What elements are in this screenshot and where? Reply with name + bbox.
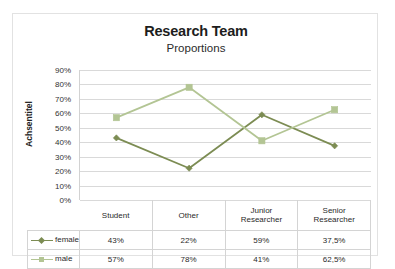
table-corner-cell xyxy=(28,200,80,231)
legend-swatch-female xyxy=(31,236,53,244)
series-plot xyxy=(80,70,371,200)
chart-frame: Research Team Proportions Achsentitel 90… xyxy=(12,13,378,256)
y-axis-tick-labels: 90%80%70%60%50%40%30%20%10%0% xyxy=(33,70,75,200)
value-cell-female-3: 37,5% xyxy=(298,231,371,250)
data-point-male-1 xyxy=(186,84,192,90)
y-axis-tick-label: 20% xyxy=(55,167,71,176)
category-header-line: Student xyxy=(80,211,152,220)
table-header-row: StudentOtherJuniorResearcherSeniorResear… xyxy=(28,200,371,231)
value-cell-female-2: 59% xyxy=(225,231,298,250)
category-header-2: JuniorResearcher xyxy=(225,200,298,231)
category-header-1: Other xyxy=(152,200,225,231)
plot-area xyxy=(79,70,371,200)
data-point-female-3 xyxy=(332,143,338,149)
value-cell-female-1: 22% xyxy=(152,231,225,250)
y-axis-tick-label: 80% xyxy=(55,80,71,89)
value-cell-male-2: 41% xyxy=(225,250,298,269)
category-header-0: Student xyxy=(80,200,153,231)
chart-title: Research Team xyxy=(13,23,379,39)
y-axis-tick-label: 90% xyxy=(55,66,71,75)
legend-swatch-male xyxy=(31,255,53,263)
category-header-3: SeniorResearcher xyxy=(298,200,371,231)
value-cell-female-0: 43% xyxy=(80,231,153,250)
data-point-male-2 xyxy=(259,138,265,144)
legend-entry-male[interactable]: male xyxy=(28,250,80,269)
category-header-line: Researcher xyxy=(226,215,298,224)
y-axis-tick-label: 40% xyxy=(55,138,71,147)
category-header-line: Senior xyxy=(298,206,370,215)
table-row: female43%22%59%37,5% xyxy=(28,231,371,250)
table-row: male57%78%41%62,5% xyxy=(28,250,371,269)
y-axis-tick-label: 70% xyxy=(55,94,71,103)
data-point-male-0 xyxy=(113,115,119,121)
data-point-female-0 xyxy=(113,135,119,141)
y-axis-tick-label: 30% xyxy=(55,152,71,161)
category-header-line: Researcher xyxy=(298,215,370,224)
category-header-line: Junior xyxy=(226,206,298,215)
chart-subtitle: Proportions xyxy=(13,42,379,54)
legend-label-female: female xyxy=(55,236,79,245)
value-cell-male-1: 78% xyxy=(152,250,225,269)
legend-entry-female[interactable]: female xyxy=(28,231,80,250)
data-point-male-3 xyxy=(332,107,338,113)
legend-label-male: male xyxy=(55,255,72,264)
data-table: StudentOtherJuniorResearcherSeniorResear… xyxy=(27,200,371,269)
value-cell-male-3: 62,5% xyxy=(298,250,371,269)
legend-marker-square-icon xyxy=(39,257,44,262)
legend-marker-diamond-icon xyxy=(38,237,45,244)
category-header-line: Other xyxy=(153,211,225,220)
y-axis-tick-label: 50% xyxy=(55,123,71,132)
value-cell-male-0: 57% xyxy=(80,250,153,269)
y-axis-tick-label: 10% xyxy=(55,181,71,190)
y-axis-tick-label: 60% xyxy=(55,109,71,118)
